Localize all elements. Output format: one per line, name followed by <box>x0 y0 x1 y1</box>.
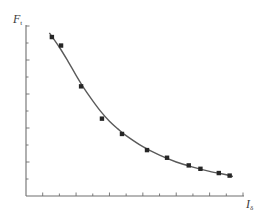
data-point-square <box>217 171 221 175</box>
axis-ticks <box>26 26 243 196</box>
y-axis-label-subscript: t <box>20 19 22 27</box>
x-axis-label: Iδ <box>246 198 253 212</box>
data-point-square <box>198 167 202 171</box>
fit-curve <box>49 33 233 177</box>
x-axis-label-subscript: δ <box>250 204 253 212</box>
chart-canvas <box>0 0 264 222</box>
axes <box>26 25 244 196</box>
data-point-square <box>100 116 104 120</box>
y-axis-label: Ft <box>13 13 22 27</box>
data-point-square <box>227 173 231 177</box>
data-markers <box>50 35 232 178</box>
data-point-square <box>145 148 149 152</box>
data-point-square <box>187 163 191 167</box>
data-point-square <box>165 156 169 160</box>
data-point-square <box>50 35 54 39</box>
data-point-square <box>120 132 124 136</box>
data-point-square <box>59 43 63 47</box>
data-point-square <box>79 84 83 88</box>
